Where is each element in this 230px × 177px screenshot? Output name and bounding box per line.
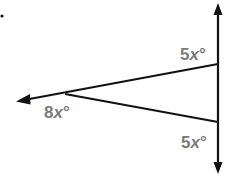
dot-marker: [0, 14, 3, 17]
degree-symbol: °: [63, 103, 70, 122]
lower-transversal-line: [65, 94, 218, 122]
degree-symbol: °: [200, 133, 207, 152]
variable: x: [189, 45, 198, 64]
upper-transversal-line: [24, 64, 218, 100]
variable: x: [190, 133, 199, 152]
arrow-down-icon: [214, 162, 223, 174]
degree-symbol: °: [199, 45, 206, 64]
angle-label-bottom-right: 5x°: [181, 134, 207, 151]
angle-label-vertex: 8x°: [44, 104, 70, 121]
angle-label-top-right: 5x°: [180, 46, 206, 63]
arrow-up-icon: [214, 3, 223, 15]
arrow-left-icon: [16, 94, 31, 105]
variable: x: [53, 103, 62, 122]
